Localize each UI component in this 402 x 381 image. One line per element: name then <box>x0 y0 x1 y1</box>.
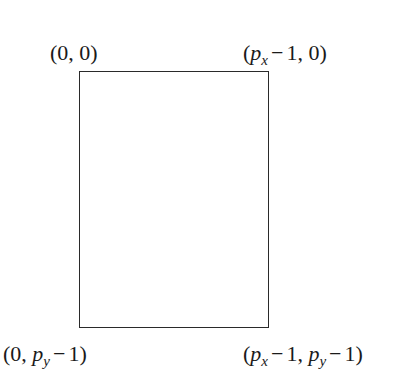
separator: , <box>21 341 32 366</box>
close-paren: ) <box>90 40 97 65</box>
close-paren: ) <box>319 40 326 65</box>
x-subscript: x <box>261 52 268 68</box>
x-variable: p <box>250 40 261 65</box>
corner-label-bottom-right: (px−1, py−1) <box>243 343 363 365</box>
y-subscript: y <box>43 353 50 369</box>
y-variable: p <box>308 341 319 366</box>
y-value: 0 <box>308 40 319 65</box>
y-number: 1 <box>68 341 79 366</box>
y-value: 0 <box>79 40 90 65</box>
minus-operator: − <box>50 341 68 366</box>
x-value: 0 <box>57 40 68 65</box>
minus-operator: − <box>268 341 286 366</box>
corner-label-top-right: (px−1, 0) <box>243 42 327 64</box>
corner-label-top-left: (0, 0) <box>50 42 98 64</box>
x-number: 1 <box>286 341 297 366</box>
x-number: 1 <box>286 40 297 65</box>
x-subscript: x <box>261 353 268 369</box>
diagram-canvas: (0, 0) (px−1, 0) (0, py−1) (px−1, py−1) <box>0 0 402 381</box>
separator: , <box>68 40 79 65</box>
minus-operator: − <box>326 341 344 366</box>
close-paren: ) <box>79 341 86 366</box>
image-boundary-rectangle <box>79 71 269 328</box>
close-paren: ) <box>356 341 363 366</box>
minus-operator: − <box>268 40 286 65</box>
x-variable: p <box>250 341 261 366</box>
y-variable: p <box>32 341 43 366</box>
x-value: 0 <box>10 341 21 366</box>
separator: , <box>297 40 308 65</box>
separator: , <box>297 341 308 366</box>
y-number: 1 <box>345 341 356 366</box>
corner-label-bottom-left: (0, py−1) <box>3 343 87 365</box>
